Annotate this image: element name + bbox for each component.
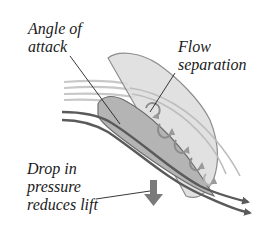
- label-drop-in-pressure: Drop in pressure reduces lift: [27, 160, 98, 214]
- label-flow-separation-line1: Flow: [178, 38, 246, 56]
- label-flow-separation: Flow separation: [178, 38, 246, 74]
- label-angle-of-attack-line2: attack: [28, 38, 82, 56]
- label-drop-line2: pressure: [27, 178, 98, 196]
- label-flow-separation-line2: separation: [178, 56, 246, 74]
- label-angle-of-attack: Angle of attack: [28, 20, 82, 56]
- label-drop-line3: reduces lift: [27, 196, 98, 214]
- label-drop-line1: Drop in: [27, 160, 98, 178]
- label-angle-of-attack-line1: Angle of: [28, 20, 82, 38]
- down-arrow-icon: [144, 180, 163, 206]
- stall-diagram: Angle of attack Flow separation Drop in …: [0, 0, 266, 234]
